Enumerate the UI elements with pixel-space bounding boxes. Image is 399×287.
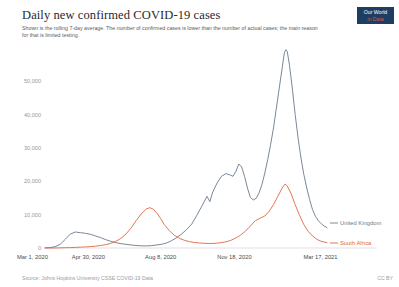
x-tick-label: Nov 18, 2020 bbox=[217, 254, 251, 260]
legend-label[interactable]: United Kingdom bbox=[340, 220, 381, 226]
series-line-south-africa[interactable] bbox=[45, 184, 327, 248]
x-tick-label: Apr 30, 2020 bbox=[72, 254, 105, 260]
x-tick-label: Mar 17, 2021 bbox=[303, 254, 337, 260]
y-tick-label-zero: 0 bbox=[38, 245, 41, 251]
chart-legend: United KingdomSouth Africa bbox=[330, 220, 381, 246]
y-axis: 10,00020,00030,00040,00050,000 bbox=[24, 78, 41, 217]
x-tick-label: Mar 1, 2020 bbox=[17, 254, 48, 260]
y-tick-label: 30,000 bbox=[24, 145, 41, 151]
source-label: Source: Johns Hopkins University CSSE CO… bbox=[22, 275, 153, 281]
chart-footer: Source: Johns Hopkins University CSSE CO… bbox=[22, 275, 393, 281]
x-axis-baseline: 0 bbox=[38, 245, 377, 251]
series-line-united-kingdom[interactable] bbox=[45, 50, 327, 248]
y-tick-label: 10,000 bbox=[24, 212, 41, 218]
y-tick-label: 40,000 bbox=[24, 112, 41, 118]
license-label[interactable]: CC BY bbox=[377, 275, 393, 281]
x-tick-label: Aug 8, 2020 bbox=[145, 254, 176, 260]
line-chart-svg: 10,00020,00030,00040,00050,000 0 Mar 1, … bbox=[0, 0, 399, 287]
y-tick-label: 20,000 bbox=[24, 178, 41, 184]
data-series-group bbox=[45, 50, 327, 248]
x-axis: Mar 1, 2020Apr 30, 2020Aug 8, 2020Nov 18… bbox=[17, 254, 338, 260]
y-tick-label: 50,000 bbox=[24, 78, 41, 84]
owid-chart-card: Daily new confirmed COVID-19 cases Shown… bbox=[0, 0, 399, 287]
legend-label[interactable]: South Africa bbox=[340, 240, 372, 246]
chart-plot-area: 10,00020,00030,00040,00050,000 0 Mar 1, … bbox=[0, 0, 399, 287]
